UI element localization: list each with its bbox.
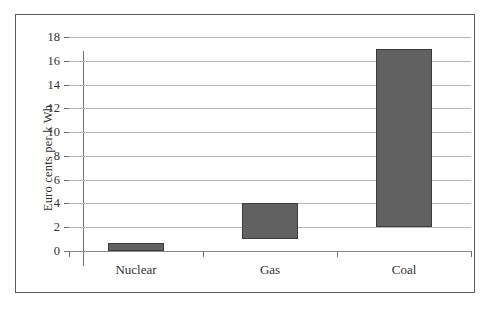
x-axis-tick-label: Coal: [392, 263, 417, 276]
y-axis-tick-label: 18: [16, 31, 60, 44]
x-axis-tick: [69, 251, 70, 257]
x-axis-tick: [203, 251, 204, 257]
bar: [108, 243, 164, 251]
x-axis-tick-label: Gas: [260, 263, 280, 276]
y-axis-tick: [64, 203, 69, 204]
figure-frame: 024681012141618 NuclearGasCoal Euro cent…: [15, 14, 475, 293]
y-axis-tick: [64, 132, 69, 133]
y-axis-tick: [64, 156, 69, 157]
y-axis-title: Euro cents per k Wh: [40, 51, 56, 265]
x-axis-tick-label: Nuclear: [115, 263, 156, 276]
y-axis-spine: [83, 51, 84, 266]
gridline: [69, 251, 471, 252]
chart-screenshot: 024681012141618 NuclearGasCoal Euro cent…: [0, 0, 492, 309]
y-axis-tick: [64, 85, 69, 86]
y-axis-tick: [64, 227, 69, 228]
x-axis-tick: [471, 251, 472, 257]
x-axis-tick: [337, 251, 338, 257]
y-axis-tick: [64, 180, 69, 181]
y-axis-tick: [64, 108, 69, 109]
bar: [242, 203, 298, 239]
y-axis-tick: [64, 61, 69, 62]
y-axis-tick: [64, 37, 69, 38]
bar: [376, 49, 432, 227]
gridline: [69, 37, 471, 38]
